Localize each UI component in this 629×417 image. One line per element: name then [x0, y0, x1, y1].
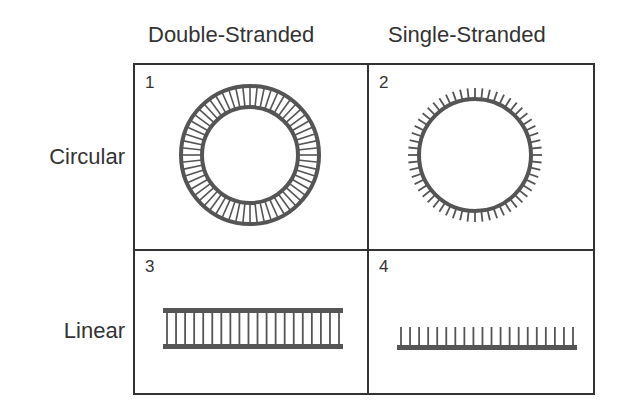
column-header-single-stranded: Single-Stranded — [388, 22, 546, 48]
single-stranded-circular-dna-icon — [405, 85, 545, 225]
single-stranded-linear-dna-icon — [397, 325, 582, 353]
row-header-circular: Circular — [0, 144, 125, 170]
row-header-linear: Linear — [0, 318, 125, 344]
double-stranded-circular-dna-icon — [175, 80, 325, 230]
grid-divider-horizontal — [135, 249, 593, 251]
double-stranded-linear-dna-icon — [163, 305, 348, 351]
grid-divider-vertical — [367, 65, 369, 393]
cell-number-3: 3 — [145, 257, 154, 277]
cell-number-4: 4 — [379, 257, 388, 277]
cell-number-2: 2 — [379, 73, 388, 93]
classification-grid: 1 2 3 4 — [133, 63, 595, 395]
cell-number-1: 1 — [145, 73, 154, 93]
column-header-double-stranded: Double-Stranded — [148, 22, 314, 48]
